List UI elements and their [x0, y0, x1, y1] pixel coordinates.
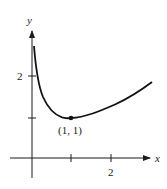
function-curve: [34, 46, 152, 118]
point-label: (1, 1): [58, 124, 82, 137]
y-axis-label: y: [26, 14, 32, 26]
x-tick-2-label: 2: [108, 166, 114, 178]
function-graph: y x 2 2 (1, 1): [0, 0, 167, 189]
y-tick-2-label: 2: [17, 70, 23, 82]
min-point-marker: [69, 116, 74, 121]
x-axis-label: x: [154, 152, 160, 164]
